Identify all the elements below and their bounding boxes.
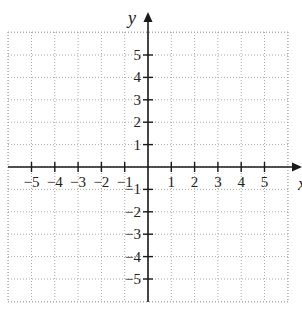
x-axis-arrow-icon [292, 163, 302, 172]
x-tick-label: −5 [24, 174, 40, 190]
y-tick-label: −3 [125, 226, 141, 242]
x-tick-label: 2 [191, 174, 199, 190]
x-tick-label: 5 [261, 174, 269, 190]
coordinate-plane: y x −5−4−3−2−11234554321−1−2−3−4−5 [0, 0, 302, 310]
x-tick-label: −3 [70, 174, 86, 190]
y-tick-label: −1 [125, 181, 141, 197]
y-tick-label: −5 [125, 271, 141, 287]
x-tick-label: 1 [168, 174, 176, 190]
y-axis-arrow-icon [144, 12, 153, 22]
x-tick-label: −2 [93, 174, 109, 190]
x-tick-label: −4 [47, 174, 63, 190]
x-axis-label: x [297, 174, 302, 194]
y-tick-label: 5 [134, 47, 142, 63]
y-tick-label: 2 [134, 114, 142, 130]
y-tick-label: −4 [125, 249, 141, 265]
y-tick-label: −2 [125, 204, 141, 220]
x-tick-label: 4 [237, 174, 245, 190]
x-tick-label: 3 [214, 174, 222, 190]
y-tick-label: 4 [134, 69, 142, 85]
y-tick-label: 1 [134, 137, 142, 153]
y-tick-label: 3 [134, 92, 142, 108]
y-axis-label: y [126, 8, 136, 28]
axes: y x [8, 8, 302, 302]
